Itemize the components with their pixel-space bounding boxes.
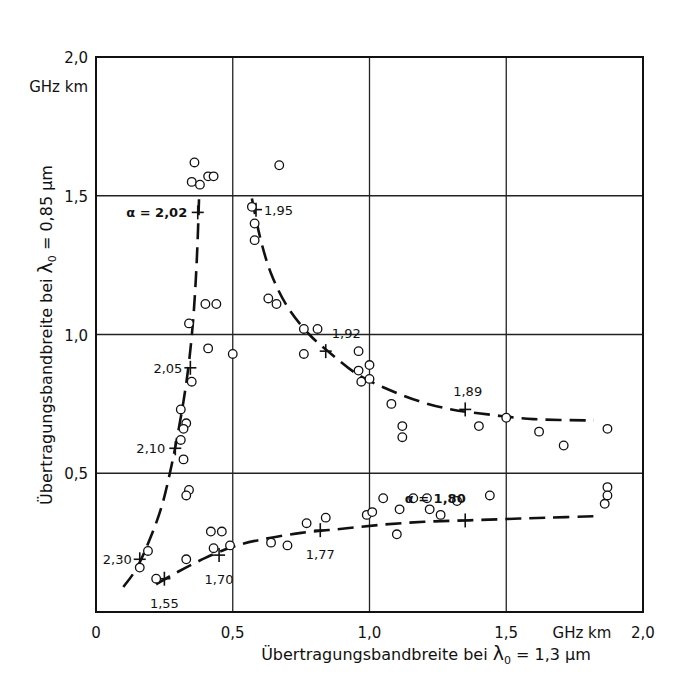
dashed-curve xyxy=(123,196,199,587)
data-point-circle xyxy=(179,455,188,464)
y-axis-title: Übertragungsbandbreite bei λ0 = 0,85 µm xyxy=(34,165,59,505)
data-point-circle xyxy=(387,400,396,409)
grid-lines xyxy=(96,57,643,612)
data-point-circle xyxy=(182,555,191,564)
x-axis-title: Übertragungsbandbreite bei λ0 = 1,3 µm xyxy=(261,642,591,667)
data-point-circle xyxy=(190,158,199,167)
data-point-circle xyxy=(176,436,185,445)
data-point-circle xyxy=(302,519,311,528)
alpha-label: 2,10 xyxy=(136,441,165,456)
x-tick-label: 1,0 xyxy=(358,624,382,642)
data-point-circle xyxy=(603,483,612,492)
data-point-circle xyxy=(212,300,221,309)
data-point-circle xyxy=(559,441,568,450)
data-point-circle xyxy=(475,422,484,431)
alpha-label: α = 1,80 xyxy=(405,491,466,506)
dashed-curve xyxy=(252,199,594,421)
data-point-circle xyxy=(398,433,407,442)
data-point-circle xyxy=(176,405,185,414)
data-point-circle xyxy=(182,491,191,500)
data-point-circle xyxy=(218,527,227,536)
data-point-circle xyxy=(603,425,612,434)
data-point-circle xyxy=(300,325,309,334)
data-point-circle xyxy=(436,511,445,520)
data-points xyxy=(135,158,611,583)
data-point-circle xyxy=(365,375,374,384)
scatter-chart: α = 2,022,052,102,301,951,921,891,551,70… xyxy=(0,0,684,698)
axis-tick-labels: 00,51,01,52,00,51,01,52,0 xyxy=(64,49,655,642)
data-point-circle xyxy=(187,178,196,187)
data-point-circle xyxy=(603,491,612,500)
data-point-circle xyxy=(135,563,144,572)
alpha-label: 1,55 xyxy=(150,596,179,611)
data-point-circle xyxy=(250,236,259,245)
data-point-circle xyxy=(379,494,388,503)
data-point-circle xyxy=(204,344,213,353)
data-point-circle xyxy=(313,325,322,334)
data-point-circle xyxy=(321,513,330,522)
alpha-label: 2,05 xyxy=(153,361,182,376)
data-point-circle xyxy=(209,172,218,181)
data-point-circle xyxy=(368,508,377,517)
data-point-circle xyxy=(486,491,495,500)
data-point-circle xyxy=(179,425,188,434)
data-point-circle xyxy=(398,422,407,431)
data-point-circle xyxy=(196,180,205,189)
alpha-label: 1,95 xyxy=(264,203,293,218)
data-point-circle xyxy=(535,427,544,436)
data-point-circle xyxy=(264,294,273,303)
y-unit-label: GHz km xyxy=(29,78,88,96)
x-tick-label: 2,0 xyxy=(631,624,655,642)
data-point-circle xyxy=(275,161,284,170)
x-tick-label: 0,5 xyxy=(221,624,245,642)
data-point-circle xyxy=(354,347,363,356)
alpha-label: 1,92 xyxy=(332,326,361,341)
data-point-circle xyxy=(207,527,216,536)
data-point-circle xyxy=(357,377,366,386)
data-point-circle xyxy=(248,203,257,212)
y-tick-label: 1,5 xyxy=(64,188,88,206)
data-point-circle xyxy=(250,219,259,228)
data-point-circle xyxy=(395,505,404,514)
data-point-circle xyxy=(187,377,196,386)
alpha-label: 2,30 xyxy=(103,552,132,567)
data-point-circle xyxy=(185,319,194,328)
data-point-circle xyxy=(152,574,161,583)
x-tick-label: 0 xyxy=(91,624,101,642)
data-point-circle xyxy=(283,541,292,550)
y-tick-label: 1,0 xyxy=(64,327,88,345)
data-point-circle xyxy=(354,366,363,375)
data-point-circle xyxy=(502,413,511,422)
alpha-label: α = 2,02 xyxy=(126,205,187,220)
alpha-label: 1,77 xyxy=(306,547,335,562)
x-tick-label: 1,5 xyxy=(494,624,518,642)
alpha-labels: α = 2,022,052,102,301,951,921,891,551,70… xyxy=(103,203,482,611)
data-point-circle xyxy=(209,544,218,553)
data-point-circle xyxy=(600,499,609,508)
data-point-circle xyxy=(144,547,153,556)
y-tick-label: 0,5 xyxy=(64,465,88,483)
data-point-circle xyxy=(300,350,309,359)
alpha-label: 1,89 xyxy=(453,384,482,399)
data-point-circle xyxy=(228,350,237,359)
data-point-circle xyxy=(267,538,276,547)
x-unit-label: GHz km xyxy=(553,624,612,642)
y-tick-label: 2,0 xyxy=(64,49,88,67)
data-point-circle xyxy=(272,300,281,309)
data-point-circle xyxy=(393,530,402,539)
alpha-label: 1,70 xyxy=(205,572,234,587)
data-point-circle xyxy=(226,541,235,550)
data-point-circle xyxy=(365,361,374,370)
data-point-circle xyxy=(201,300,210,309)
fitted-curves xyxy=(123,196,593,587)
